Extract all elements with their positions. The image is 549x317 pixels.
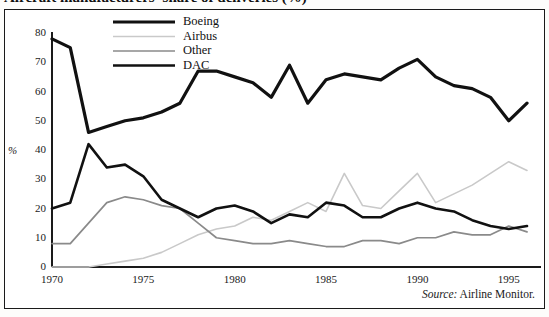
source-label: Source: <box>422 288 457 300</box>
figure-container: Aircraft manufacturers' share of deliver… <box>0 0 549 317</box>
legend-label-dac: DAC <box>183 58 209 73</box>
y-tick-80: 80 <box>20 26 46 38</box>
x-tick-1975: 1975 <box>121 273 165 285</box>
series-line-boeing <box>52 39 527 133</box>
y-tick-60: 60 <box>20 85 46 97</box>
y-tick-50: 50 <box>20 114 46 126</box>
series-line-dac <box>52 144 527 229</box>
legend-label-boeing: Boeing <box>183 14 219 29</box>
source-note: Source: Airline Monitor. <box>422 288 535 300</box>
y-tick-40: 40 <box>20 143 46 155</box>
y-axis-label: % <box>8 144 17 156</box>
line-chart-plot <box>0 0 549 317</box>
source-value: Airline Monitor. <box>460 288 535 300</box>
x-tick-1980: 1980 <box>213 273 257 285</box>
y-tick-30: 30 <box>20 172 46 184</box>
x-tick-1985: 1985 <box>304 273 348 285</box>
x-tick-1970: 1970 <box>30 273 74 285</box>
y-tick-20: 20 <box>20 202 46 214</box>
x-tick-1990: 1990 <box>395 273 439 285</box>
legend-label-other: Other <box>183 43 211 58</box>
x-tick-1995: 1995 <box>487 273 531 285</box>
series-line-other <box>52 197 527 247</box>
y-tick-0: 0 <box>20 260 46 272</box>
legend-label-airbus: Airbus <box>183 29 217 44</box>
y-tick-70: 70 <box>20 55 46 67</box>
y-tick-10: 10 <box>20 231 46 243</box>
